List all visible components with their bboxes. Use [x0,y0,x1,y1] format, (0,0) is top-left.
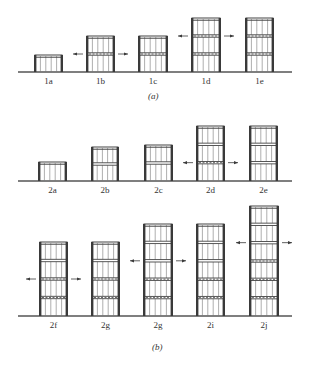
building-2g: 2g [91,242,120,330]
caption-b: (b) [152,342,163,352]
roof-slab [250,126,277,128]
roof-slab [39,162,66,164]
building-label: 2g [154,320,164,330]
building-label: 1e [255,76,264,86]
left-column [245,18,247,72]
roof-slab [92,242,119,244]
right-arrowhead-icon [288,241,292,244]
building-label: 2j [260,320,267,330]
left-column [91,147,93,181]
right-arrowhead-icon [234,161,238,164]
left-column [38,162,40,181]
building-1c: 1c [138,36,168,86]
right-column [65,162,67,181]
roof-slab [87,36,114,38]
left-column [249,126,251,181]
floor-slab [92,163,118,165]
roof-slab [145,145,172,147]
building-label: 2g [101,320,111,330]
roof-slab [197,224,224,226]
right-arrowhead-icon [77,277,81,280]
right-column [219,18,221,72]
left-column [34,55,36,72]
building-label: 1b [96,76,106,86]
left-column [91,242,93,316]
building-2g: 2g [130,224,186,330]
building-label: 1c [149,76,158,86]
floor-slab [250,143,277,145]
building-label: 1d [202,76,212,86]
right-column [277,206,279,316]
left-arrowhead-icon [73,52,77,55]
right-column [171,145,173,181]
building-1e: 1e [245,18,274,86]
right-column [272,18,274,72]
right-column [117,147,119,181]
left-arrowhead-icon [183,161,187,164]
building-2e: 2e [249,126,278,195]
floor-slab [250,161,277,163]
floor-slab [144,241,172,243]
building-label: 2f [50,320,58,330]
right-column [166,36,168,72]
left-arrowhead-icon [236,241,240,244]
floor-slab [197,260,224,262]
structural-elevation-diagram: 1a1b1c1d1e 2a2b2c2d2e 2f2g2g2i2j (a) (b) [0,0,309,370]
left-column [249,206,251,316]
caption-a: (a) [148,91,159,101]
roof-slab [250,206,278,208]
building-label: 2d [206,185,216,195]
right-arrowhead-icon [230,34,234,37]
left-arrowhead-icon [130,259,134,262]
left-arrowhead-icon [26,277,30,280]
right-column [61,55,63,72]
panel-b-row-1: 2a2b2c2d2e [18,126,292,195]
panel-a: 1a1b1c1d1e [18,18,292,86]
building-2j: 2j [236,206,292,330]
roof-slab [92,147,118,149]
left-column [86,36,88,72]
roof-slab [139,36,167,38]
building-1a: 1a [34,55,63,86]
building-2c: 2c [144,145,173,195]
left-column [196,224,198,316]
right-column [276,126,278,181]
roof-slab [144,224,172,226]
left-column [196,126,198,181]
roof-slab [35,55,62,57]
floor-slab [250,223,278,225]
roof-slab [192,18,220,20]
building-label: 1a [44,76,53,86]
floor-slab [144,260,172,262]
building-label: 2c [154,185,163,195]
building-1b: 1b [73,36,128,86]
building-2d: 2d [183,126,238,195]
building-label: 2i [207,320,215,330]
floor-slab [250,241,278,243]
roof-slab [197,126,224,128]
building-label: 2b [101,185,111,195]
right-column [223,224,225,316]
roof-slab [40,242,67,244]
right-arrowhead-icon [182,259,186,262]
floor-slab [92,259,119,261]
building-2b: 2b [91,147,119,195]
floor-slab [40,259,67,261]
right-column [113,36,115,72]
right-column [171,224,173,316]
left-column [144,145,146,181]
building-1d: 1d [178,18,234,86]
right-column [118,242,120,316]
right-column [223,126,225,181]
right-arrowhead-icon [124,52,128,55]
building-label: 2a [48,185,57,195]
left-column [143,224,145,316]
building-2i: 2i [196,224,225,330]
left-column [138,36,140,72]
panel-b-row-2: 2f2g2g2i2j [18,206,292,330]
roof-slab [246,18,273,20]
building-label: 2e [259,185,268,195]
building-2f: 2f [26,242,81,330]
building-2a: 2a [38,162,67,195]
right-column [66,242,68,316]
